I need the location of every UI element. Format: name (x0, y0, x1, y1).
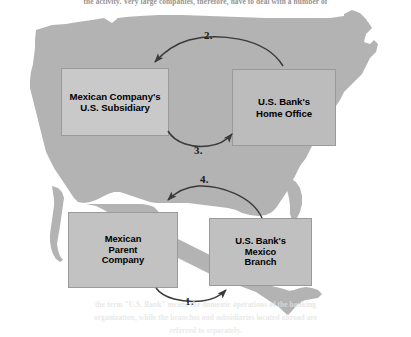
box-mexico-branch-line1: U.S. Bank's (235, 235, 286, 246)
box-us-bank-home-office[interactable]: U.S. Bank's Home Office (232, 69, 336, 146)
box-mexico-branch-line2: Mexico (245, 246, 276, 257)
box-mexican-company-us-subsidiary[interactable]: Mexican Company's U.S. Subsidiary (61, 68, 169, 136)
box-mexico-branch-label: U.S. Bank's Mexico Branch (232, 236, 289, 269)
box-parent-label: Mexican Parent Company (99, 234, 147, 267)
us-mexico-map (0, 0, 411, 337)
box-home-office-line1: U.S. Bank's (258, 96, 310, 107)
step-label-1: 1. (185, 296, 194, 307)
box-subsidiary-line1: Mexican Company's (69, 91, 160, 102)
box-us-bank-mexico-branch[interactable]: U.S. Bank's Mexico Branch (209, 218, 312, 286)
diagram-figure: the activity. Very large companies, ther… (0, 0, 411, 337)
box-parent-line2: Parent (109, 244, 138, 255)
box-mexican-parent-company[interactable]: Mexican Parent Company (68, 212, 178, 288)
step-label-3: 3. (194, 145, 203, 156)
box-subsidiary-label: Mexican Company's U.S. Subsidiary (66, 91, 163, 113)
florida-peninsula (286, 178, 302, 220)
box-parent-line1: Mexican (105, 233, 142, 244)
step-label-4: 4. (200, 174, 209, 185)
box-parent-line3: Company (102, 254, 144, 265)
baja-peninsula (50, 186, 64, 262)
step-label-2: 2. (204, 30, 213, 41)
box-home-office-line2: Home Office (256, 108, 312, 119)
box-subsidiary-line2: U.S. Subsidiary (80, 102, 150, 113)
box-mexico-branch-line3: Branch (245, 256, 277, 267)
box-home-office-label: U.S. Bank's Home Office (253, 96, 315, 118)
